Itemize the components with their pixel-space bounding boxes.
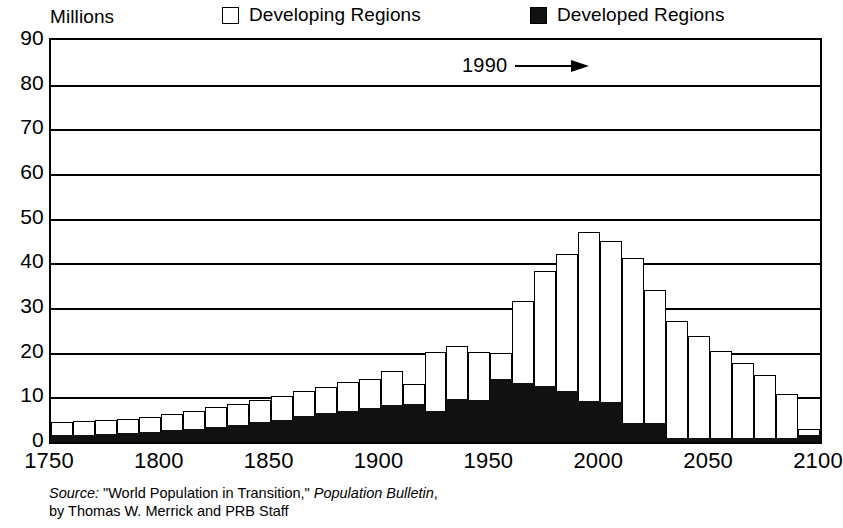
x-axis-tick-label: 2000: [573, 448, 623, 474]
bar-segment-developed: [139, 432, 161, 442]
legend-label-developed: Developed Regions: [557, 4, 725, 26]
bar-segment-developing: [776, 394, 798, 442]
y-axis-units-label: Millions: [50, 6, 114, 28]
bar-2050: [710, 351, 732, 442]
bar-segment-developing: [754, 375, 776, 442]
bar-segment-developed: [556, 391, 578, 442]
bar-2090: [798, 429, 820, 442]
bar-1920: [425, 352, 447, 442]
bar-segment-developed: [600, 402, 622, 442]
y-axis-tick-label: 80: [4, 71, 44, 95]
legend-label-developing: Developing Regions: [249, 4, 421, 26]
open-square-icon: [222, 7, 239, 24]
source-title: "World Population in Transition,": [99, 485, 314, 501]
gridline: [51, 263, 820, 265]
bar-1910: [403, 384, 425, 442]
bar-1900: [381, 371, 403, 442]
gridline: [51, 174, 820, 176]
bar-segment-developing: [666, 321, 688, 442]
bar-segment-developed: [205, 427, 227, 442]
y-axis-tick-label: 70: [4, 115, 44, 139]
x-axis-baseline: [49, 442, 822, 444]
x-axis-tick-label: 1750: [24, 448, 74, 474]
bar-1880: [337, 382, 359, 442]
bar-2060: [732, 363, 754, 443]
source-prefix: Source:: [49, 485, 99, 501]
annotation-label: 1990: [462, 54, 507, 77]
x-axis-tick-label: 2050: [683, 448, 733, 474]
bar-1750: [51, 422, 73, 442]
bar-segment-developing: [622, 258, 644, 442]
bar-2030: [666, 321, 688, 442]
gridline: [51, 219, 820, 221]
source-note-line-2: by Thomas W. Merrick and PRB Staff: [49, 502, 438, 520]
bar-2000: [600, 241, 622, 442]
y-axis-tick-label: 20: [4, 339, 44, 363]
gridline: [51, 85, 820, 87]
bar-segment-developed: [798, 435, 820, 442]
legend-item-developed: Developed Regions: [530, 4, 725, 26]
y-axis-tick-label: 60: [4, 160, 44, 184]
bar-2020: [644, 290, 666, 442]
peak-year-annotation: 1990: [462, 54, 591, 77]
bar-1870: [315, 387, 337, 442]
bar-segment-developed: [425, 411, 447, 442]
bar-segment-developed: [534, 386, 556, 442]
bar-2040: [688, 336, 710, 442]
bar-segment-developed: [381, 405, 403, 442]
y-axis-tick-label: 30: [4, 294, 44, 318]
bar-2080: [776, 394, 798, 442]
x-axis-tick-label: 1950: [464, 448, 514, 474]
bar-segment-developed: [249, 422, 271, 442]
bar-segment-developing: [710, 351, 732, 442]
bar-1960: [512, 301, 534, 442]
bar-1940: [468, 352, 490, 442]
bar-1820: [205, 407, 227, 442]
bar-segment-developed: [73, 435, 95, 442]
bar-segment-developed: [227, 425, 249, 442]
bar-2070: [754, 375, 776, 442]
bar-1930: [446, 346, 468, 442]
y-axis-tick-label: 50: [4, 205, 44, 229]
bar-segment-developed: [512, 383, 534, 442]
bar-1800: [161, 414, 183, 442]
bar-segment-developed: [578, 401, 600, 442]
bar-2010: [622, 258, 644, 442]
bar-segment-developed: [337, 411, 359, 442]
x-axis-tick-label: 1850: [244, 448, 294, 474]
bar-1840: [249, 400, 271, 442]
bar-1830: [227, 404, 249, 442]
bar-1970: [534, 271, 556, 442]
bar-segment-developing: [688, 336, 710, 442]
bar-segment-developed: [315, 413, 337, 442]
source-note-line-1: Source: "World Population in Transition,…: [49, 484, 438, 502]
plot-area: [49, 38, 822, 442]
bar-1950: [490, 353, 512, 442]
bar-segment-developed: [490, 379, 512, 442]
x-axis-tick-label: 1800: [134, 448, 184, 474]
gridline: [51, 308, 820, 310]
bar-segment-developed: [51, 435, 73, 442]
bar-segment-developed: [95, 434, 117, 442]
right-arrow-icon: [515, 58, 591, 74]
filled-square-icon: [530, 7, 547, 24]
y-axis-tick-label: 90: [4, 26, 44, 50]
bar-segment-developed: [293, 416, 315, 442]
bar-1850: [271, 396, 293, 442]
bar-segment-developing: [732, 363, 754, 443]
bar-1860: [293, 391, 315, 442]
bar-1890: [359, 379, 381, 442]
bar-segment-developed: [161, 430, 183, 442]
gridline: [51, 129, 820, 131]
bar-segment-developed: [468, 400, 490, 442]
bar-segment-developed: [117, 433, 139, 442]
x-axis-tick-label: 2100: [793, 448, 843, 474]
bar-segment-developed: [403, 404, 425, 442]
bar-segment-developed: [644, 423, 666, 442]
bar-1980: [556, 254, 578, 442]
bar-1780: [117, 419, 139, 442]
source-note: Source: "World Population in Transition,…: [49, 484, 438, 520]
y-axis-tick-label: 40: [4, 249, 44, 273]
bar-1990: [578, 232, 600, 442]
